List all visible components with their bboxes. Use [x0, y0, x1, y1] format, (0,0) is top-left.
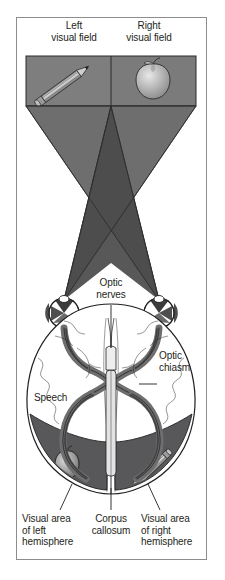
speech-label: Speech [34, 392, 82, 404]
visual-area-right-label: Visual area of right hemisphere [141, 513, 205, 548]
optic-nerves-label: Optic nerves [85, 277, 137, 300]
corpus-callosum-label: Corpus callosum [86, 513, 136, 536]
left-visual-field-title: Left visual field [37, 20, 111, 43]
visual-pathway-diagram: Left visual field Right visual field Opt… [0, 0, 225, 580]
leader-visual-area-left [60, 484, 72, 510]
figure-frame: Left visual field Right visual field Opt… [16, 17, 207, 560]
optic-chiasm-label: Optic chiasm [159, 350, 207, 373]
right-visual-field-title: Right visual field [112, 20, 186, 43]
leader-visual-area-right [148, 484, 160, 510]
visual-area-left-label: Visual area of left hemisphere [22, 513, 84, 548]
